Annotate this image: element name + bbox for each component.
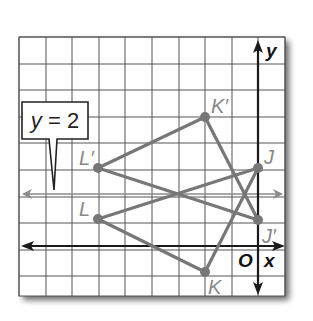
origin-label: O bbox=[238, 250, 253, 271]
equation-label: y = 2 bbox=[29, 108, 79, 133]
coordinate-grid-figure: J K L J′ K′ L′ y x O y = 2 bbox=[0, 0, 313, 321]
point-J-prime bbox=[253, 215, 263, 225]
label-K: K bbox=[208, 276, 223, 298]
y-axis-label: y bbox=[265, 40, 278, 61]
label-K-prime: K′ bbox=[211, 95, 229, 117]
label-L: L bbox=[79, 198, 90, 220]
label-J: J bbox=[263, 146, 275, 168]
label-J-prime: J′ bbox=[261, 225, 277, 247]
point-L-prime bbox=[93, 163, 103, 173]
point-K-prime bbox=[200, 112, 210, 122]
x-axis-label: x bbox=[263, 250, 276, 271]
point-J bbox=[253, 163, 263, 173]
label-L-prime: L′ bbox=[79, 147, 95, 169]
point-L bbox=[93, 214, 103, 224]
